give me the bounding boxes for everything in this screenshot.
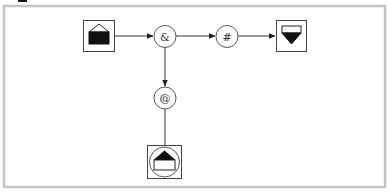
diagram-frame bbox=[4, 6, 385, 187]
node-and[interactable]: & bbox=[154, 26, 176, 48]
node-hash[interactable]: # bbox=[216, 26, 238, 48]
node-and-label: & bbox=[160, 31, 170, 44]
node-sink[interactable] bbox=[277, 21, 307, 52]
node-hash-label: # bbox=[222, 31, 231, 44]
node-source[interactable] bbox=[84, 21, 115, 52]
node-at-label: @ bbox=[160, 92, 171, 105]
node-at[interactable]: @ bbox=[154, 87, 176, 109]
diagram-canvas: & # @ bbox=[0, 0, 391, 192]
node-target[interactable] bbox=[148, 146, 182, 179]
title-fragment bbox=[18, 0, 27, 2]
